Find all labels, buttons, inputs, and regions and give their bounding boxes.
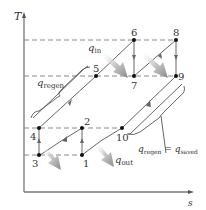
regen-brackets [31,67,185,153]
t-axis-label: T [14,10,23,23]
q-regen-label: qregen [37,77,65,90]
state-label-1: 1 [83,158,89,169]
state-label-2: 2 [84,116,90,127]
ts-diagram: T s [0,0,206,210]
q-in-label: qin [88,42,102,55]
heat-in-arrow-icon [101,52,128,78]
s-axis-arrow-icon [188,190,194,194]
t-axis-arrow-icon [22,12,26,18]
q-out-label: qout [115,154,133,167]
state-label-8: 8 [173,27,179,38]
state-label-7: 7 [131,80,137,91]
heat-labels: qin qregen qout qregen = qsaved [37,42,198,167]
heat-out-arrow-icon [42,146,61,170]
state-label-4: 4 [30,131,36,142]
q-regen-equals-q-saved-label: qregen = qsaved [138,144,198,156]
heat-in-arrow-icon-2 [141,52,168,78]
state-label-9: 9 [178,71,184,82]
heat-out-arrow-icon-2 [95,143,114,167]
state-label-6: 6 [131,27,137,38]
s-axis-label: s [188,198,193,208]
state-label-10: 10 [116,132,129,143]
state-label-3: 3 [32,158,38,169]
state-label-5: 5 [93,63,99,74]
